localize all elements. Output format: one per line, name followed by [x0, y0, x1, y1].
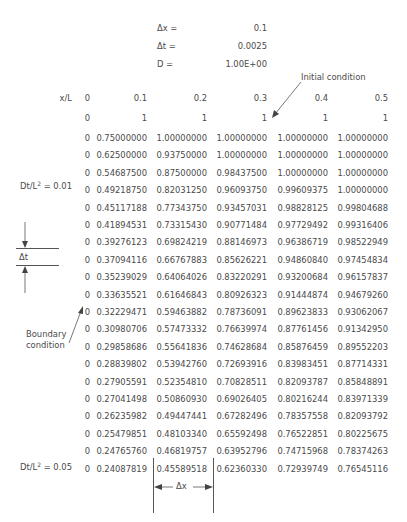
- table-cell: 1.00000000: [328, 168, 388, 178]
- table-cell: 0.46819757: [147, 446, 207, 456]
- table-cell: 0.50860930: [147, 394, 207, 404]
- table-cell: 0.27041498: [87, 394, 147, 404]
- table-cell: 0.94860840: [268, 255, 328, 265]
- table-cell: 0.55641836: [147, 342, 207, 352]
- table-cell: 0.69026405: [207, 394, 267, 404]
- table-cell: 0.88146973: [207, 237, 267, 247]
- boundary-condition-line1: Boundary: [26, 329, 66, 340]
- table-cell: 0.30980706: [87, 324, 147, 334]
- table-cell: 0.99316406: [328, 220, 388, 230]
- dt-label-prefix: Dt/L: [20, 462, 37, 472]
- table-cell: 0.80216244: [268, 394, 328, 404]
- column-header: 0.2: [147, 93, 207, 103]
- table-cell: 0.85626221: [207, 255, 267, 265]
- table-cell: 0.26235982: [87, 411, 147, 421]
- table-cell: 0.93457031: [207, 203, 267, 213]
- column-header: 0.4: [268, 93, 328, 103]
- table-row: 00.392761230.698242190.881469730.9638671…: [0, 237, 407, 249]
- table-cell: 0.62500000: [87, 150, 147, 160]
- table-row: 00.322294710.594638820.787360910.8962383…: [0, 307, 407, 319]
- table-cell: 0.85848891: [328, 377, 388, 387]
- table-cell: 0.83220291: [207, 272, 267, 282]
- table-cell: 0.29858686: [87, 342, 147, 352]
- table-cell: 0.45589518: [147, 464, 207, 474]
- table-cell: 0.97729492: [268, 220, 328, 230]
- table-cell: 0.57473332: [147, 324, 207, 334]
- table-cell: 0.48103340: [147, 429, 207, 439]
- table-cell: 0.83971339: [328, 394, 388, 404]
- table-cell: 0.41894531: [87, 220, 147, 230]
- table-cell: 0.97454834: [328, 255, 388, 265]
- table-cell: 0.96093750: [207, 185, 267, 195]
- table-cell: 0.80225675: [328, 429, 388, 439]
- table-cell: 1.00000000: [268, 168, 328, 178]
- table-cell: 0.37094116: [87, 255, 147, 265]
- table-row: 00.247657600.468197570.639527960.7471596…: [0, 446, 407, 458]
- table-row: 00.288398020.539427600.726939160.8398345…: [0, 359, 407, 371]
- table-cell: 0.67282496: [207, 411, 267, 421]
- table-cell: 0.33635521: [87, 290, 147, 300]
- table-cell: 0.82031250: [147, 185, 207, 195]
- table-cell: 0.61646843: [147, 290, 207, 300]
- initial-condition-label: Initial condition: [301, 72, 366, 82]
- delta-t-label: Δt: [19, 252, 28, 262]
- table-cell: 0.45117188: [87, 203, 147, 213]
- table-cell: 0.75000000: [87, 133, 147, 143]
- delta-x-label: Δx: [176, 481, 187, 491]
- table-cell: 0.28839802: [87, 359, 147, 369]
- table-cell: 0.98522949: [328, 237, 388, 247]
- table-cell: 0.72939749: [268, 464, 328, 474]
- table-cell: 0.39276123: [87, 237, 147, 247]
- cell: 1: [328, 113, 388, 123]
- column-header-row: 0 0.1 0.2 0.3 0.4 0.5: [0, 93, 407, 105]
- table-cell: 0.49447441: [147, 411, 207, 421]
- cell: 1: [207, 113, 267, 123]
- table-cell: 0.91342950: [328, 324, 388, 334]
- table-cell: 0.93750000: [147, 150, 207, 160]
- dt-label-suffix: = 0.01: [41, 181, 72, 191]
- table-cell: 1.00000000: [328, 185, 388, 195]
- param-value-d: 1.00E+00: [200, 59, 267, 69]
- table-cell: 0.89552203: [328, 342, 388, 352]
- dt-label-prefix: Dt/L: [20, 181, 37, 191]
- param-value-dx: 0.1: [200, 23, 267, 33]
- column-header: 0.1: [87, 93, 147, 103]
- column-header: 0.5: [328, 93, 388, 103]
- table-cell: 0.49218750: [87, 185, 147, 195]
- table-cell: 0.74715968: [268, 446, 328, 456]
- table-cell: 0.98437500: [207, 168, 267, 178]
- table-cell: 0.82093787: [268, 377, 328, 387]
- boundary-condition-line2: condition: [26, 340, 66, 351]
- table-cell: 0.98828125: [268, 203, 328, 213]
- table-row: 00.750000001.000000001.000000001.0000000…: [0, 133, 407, 145]
- column-header: 0.3: [207, 93, 267, 103]
- table-row: 00.352390290.640640260.832202910.9320068…: [0, 272, 407, 284]
- table-row: 00.270414980.508609300.690264050.8021624…: [0, 394, 407, 406]
- table-cell: 0.74628684: [207, 342, 267, 352]
- delta-x-right-arrow-icon: [193, 482, 213, 492]
- table-cell: 0.96386719: [268, 237, 328, 247]
- table-row: 00.451171880.773437500.934570310.9882812…: [0, 203, 407, 215]
- table-row: 00.546875000.875000000.984375001.0000000…: [0, 168, 407, 180]
- table-cell: 0.65592498: [207, 429, 267, 439]
- table-cell: 0.83983451: [268, 359, 328, 369]
- table-cell: 0.25479851: [87, 429, 147, 439]
- table-cell: 0.93062067: [328, 307, 388, 317]
- table-cell: 0.54687500: [87, 168, 147, 178]
- table-cell: 0.76545116: [328, 464, 388, 474]
- table-row: 00.262359820.494474410.672824960.7835755…: [0, 411, 407, 423]
- table-cell: 0.94679260: [328, 290, 388, 300]
- table-cell: 0.32229471: [87, 307, 147, 317]
- table-row: 00.418945310.733154300.907714840.9772949…: [0, 220, 407, 232]
- table-cell: 0.69824219: [147, 237, 207, 247]
- table-cell: 0.64064026: [147, 272, 207, 282]
- table-row: 00.279055910.523548100.708285110.8209378…: [0, 377, 407, 389]
- table-cell: 0.52354810: [147, 377, 207, 387]
- param-value-dt: 0.0025: [200, 41, 267, 51]
- table-cell: 0.76639974: [207, 324, 267, 334]
- table-cell: 0.80926323: [207, 290, 267, 300]
- table-cell: 1.00000000: [207, 150, 267, 160]
- table-cell: 0.73315430: [147, 220, 207, 230]
- delta-x-right-line: [213, 458, 214, 513]
- table-row: 00.254798510.481033400.655924980.7652285…: [0, 429, 407, 441]
